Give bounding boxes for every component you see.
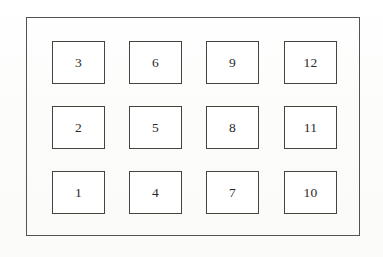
cell-box[interactable]: 11 [284, 106, 337, 149]
cell-box[interactable]: 12 [284, 41, 337, 84]
cell-label: 12 [304, 56, 318, 70]
cell-box[interactable]: 5 [129, 106, 182, 149]
cell-box[interactable]: 6 [129, 41, 182, 84]
cell-label: 5 [152, 121, 159, 135]
cell-box[interactable]: 10 [284, 171, 337, 214]
cell-label: 8 [229, 121, 236, 135]
cell-box[interactable]: 1 [52, 171, 105, 214]
cell-box[interactable]: 7 [206, 171, 259, 214]
cell-box[interactable]: 2 [52, 106, 105, 149]
cell-label: 1 [75, 186, 82, 200]
cell-box[interactable]: 9 [206, 41, 259, 84]
cell-box[interactable]: 4 [129, 171, 182, 214]
cell-label: 10 [304, 186, 318, 200]
figure-canvas: 369122581114710 [0, 0, 383, 257]
cell-label: 11 [304, 121, 317, 135]
cell-box[interactable]: 8 [206, 106, 259, 149]
cell-label: 7 [229, 186, 236, 200]
cell-label: 3 [75, 56, 82, 70]
cell-label: 6 [152, 56, 159, 70]
cell-label: 4 [152, 186, 159, 200]
cell-grid: 369122581114710 [27, 18, 359, 235]
outer-enclosure-rectangle: 369122581114710 [26, 17, 360, 236]
cell-box[interactable]: 3 [52, 41, 105, 84]
cell-label: 2 [75, 121, 82, 135]
cell-label: 9 [229, 56, 236, 70]
